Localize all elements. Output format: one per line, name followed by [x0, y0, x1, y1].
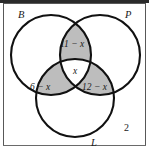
set-label-l: L — [91, 138, 97, 149]
region-label-b-and-p: 11 − x — [60, 40, 84, 50]
set-label-p: P — [125, 10, 131, 21]
venn-diagram-screenshot: B P L 11 − x x 6 − x 12 − x 2 — [0, 0, 149, 152]
region-label-outside: 2 — [124, 123, 129, 133]
region-label-all-three: x — [73, 67, 77, 77]
region-label-b-and-l: 6 − x — [30, 83, 50, 93]
region-label-p-and-l: 12 − x — [82, 83, 107, 93]
set-label-b: B — [18, 10, 24, 21]
